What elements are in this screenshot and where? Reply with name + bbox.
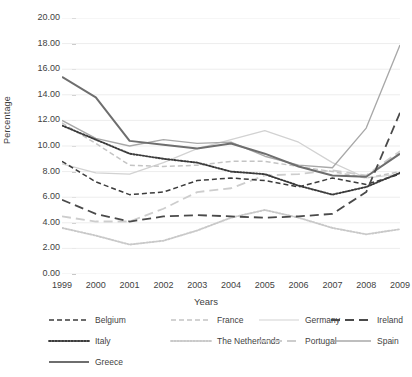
legend-label: Italy [90,336,111,346]
legend-item-greece[interactable]: Greece [48,354,123,370]
y-tick-label: 20.00 [16,13,60,22]
x-tick-label: 2001 [113,280,147,290]
legend-label: France [212,315,243,325]
legend-item-france[interactable]: France [170,312,243,328]
y-axis-title: Percentage [2,40,12,200]
x-axis-title: Years [0,296,412,307]
y-tick-label: 12.00 [16,115,60,124]
x-tick-label: 2002 [146,280,180,290]
legend-item-spain[interactable]: Spain [330,333,399,349]
x-tick-label: 2004 [214,280,248,290]
y-tick-label: 18.00 [16,39,60,48]
legend-swatch-icon [48,336,90,346]
y-tick-label: 16.00 [16,64,60,73]
series-line-portugal [62,151,400,221]
series-line-ireland [62,113,400,222]
x-tick-label: 2009 [383,280,412,290]
series-line-spain [62,45,400,168]
legend-swatch-icon [170,315,212,325]
x-tick-label: 2003 [180,280,214,290]
x-tick-label: 2007 [315,280,349,290]
line-chart: Percentage 0.002.004.006.008.0010.0012.0… [0,0,412,302]
x-tick-label: 2008 [349,280,383,290]
series-line-belgium [62,161,400,194]
y-tick-label: 0.00 [16,269,60,278]
legend-label: Belgium [90,315,126,325]
x-tick-label: 1999 [45,280,79,290]
legend-item-belgium[interactable]: Belgium [48,312,126,328]
y-tick-label: 2.00 [16,243,60,252]
y-tick-label: 10.00 [16,141,60,150]
x-tick-label: 2005 [248,280,282,290]
legend-swatch-icon [170,336,212,346]
series-line-greece [62,77,400,177]
y-tick-label: 8.00 [16,167,60,176]
legend-swatch-icon [330,336,372,346]
y-tick-label: 6.00 [16,192,60,201]
chart-page: Percentage 0.002.004.006.008.0010.0012.0… [0,0,412,377]
legend-label: Spain [372,336,399,346]
legend-item-italy[interactable]: Italy [48,333,111,349]
legend-swatch-icon [48,315,90,325]
y-tick-label: 14.00 [16,90,60,99]
legend-swatch-icon [258,315,300,325]
series-line-italy [62,126,400,195]
series-line-the-netherlands [62,210,400,245]
legend-label: Greece [90,357,123,367]
x-tick-label: 2006 [282,280,316,290]
y-tick-mark [72,274,76,275]
legend-item-portugal[interactable]: Portugal [258,333,337,349]
y-tick-label: 4.00 [16,218,60,227]
plot-area [62,18,400,274]
chart-legend: BelgiumFranceGermanyIrelandItalyThe Neth… [0,312,412,377]
legend-swatch-icon [48,357,90,367]
legend-swatch-icon [330,315,372,325]
legend-label: Ireland [372,315,403,325]
legend-swatch-icon [258,336,300,346]
x-tick-label: 2000 [79,280,113,290]
legend-item-germany[interactable]: Germany [258,312,340,328]
y-axis-ticks: 0.002.004.006.008.0010.0012.0014.0016.00… [14,0,60,302]
legend-item-ireland[interactable]: Ireland [330,312,403,328]
plot-svg [62,18,400,274]
